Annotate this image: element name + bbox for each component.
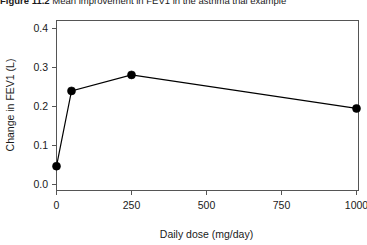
y-tick-label-4: 0.4 (33, 22, 48, 34)
line-chart: 0.4 0.3 0.2 0.1 0.0 Change in FEV1 (L) 0… (0, 0, 367, 245)
y-axis-ticks (52, 29, 57, 185)
y-tick-label-0: 0.0 (33, 178, 48, 190)
x-tick-label-3: 750 (273, 199, 291, 211)
data-point (53, 162, 61, 170)
data-point (68, 87, 76, 95)
x-tick-label-0: 0 (54, 199, 60, 211)
x-tick-label-1: 250 (123, 199, 141, 211)
y-tick-label-1: 0.1 (33, 139, 48, 151)
plot-panel-border (57, 21, 359, 191)
x-tick-label-4: 1000 (345, 199, 367, 211)
y-tick-label-2: 0.2 (33, 100, 48, 112)
x-tick-label-2: 500 (198, 199, 216, 211)
x-axis-ticks (57, 191, 357, 196)
data-point (128, 71, 136, 79)
x-axis-title: Daily dose (mg/day) (160, 228, 253, 240)
y-axis-title: Change in FEV1 (L) (4, 59, 16, 152)
data-series-line (57, 75, 357, 166)
data-point (353, 104, 361, 112)
figure-container: Figure 11.2 Mean improvement in FEV1 in … (0, 0, 367, 245)
y-tick-label-3: 0.3 (33, 61, 48, 73)
